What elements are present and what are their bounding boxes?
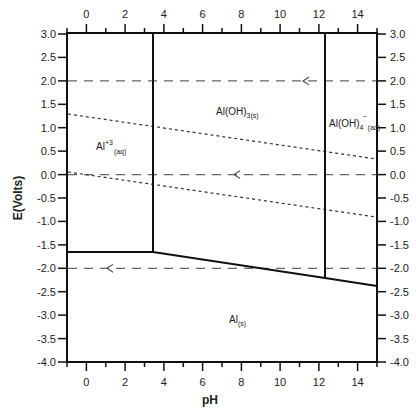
- svg-text:14: 14: [351, 8, 363, 20]
- svg-text:0: 0: [83, 376, 89, 388]
- svg-text:-1.0: -1.0: [37, 215, 56, 227]
- svg-text:2: 2: [122, 8, 128, 20]
- svg-text:1.0: 1.0: [41, 122, 56, 134]
- svg-text:-4.0: -4.0: [37, 356, 56, 368]
- svg-text:6: 6: [200, 8, 206, 20]
- svg-text:0.5: 0.5: [390, 145, 405, 157]
- svg-text:4: 4: [161, 376, 167, 388]
- water-stability-lines: [68, 114, 376, 217]
- svg-text:-1.0: -1.0: [390, 215, 409, 227]
- svg-text:2: 2: [122, 376, 128, 388]
- svg-text:6: 6: [200, 376, 206, 388]
- svg-text:-0.5: -0.5: [37, 192, 56, 204]
- y-ticks: [58, 34, 386, 362]
- pourbaix-diagram: 0 2 4 6 8 10 12 14 0 2 4 6 8 10 12 14 3.…: [0, 0, 416, 410]
- y-tick-labels-left: 3.0 2.5 2.0 1.5 1.0 0.5 0.0 -0.5 -1.0 -1…: [37, 28, 56, 368]
- x-tick-labels-top: 0 2 4 6 8 10 12 14: [83, 8, 363, 20]
- y-axis-label: E(Volts): [11, 176, 25, 220]
- svg-text:-2.5: -2.5: [390, 286, 409, 298]
- svg-text:8: 8: [238, 8, 244, 20]
- svg-text:1.5: 1.5: [390, 98, 405, 110]
- svg-text:8: 8: [238, 376, 244, 388]
- svg-text:2.0: 2.0: [41, 75, 56, 87]
- region-label-al-solid: Al(s): [229, 314, 246, 328]
- svg-text:0: 0: [83, 8, 89, 20]
- svg-text:-2.5: -2.5: [37, 286, 56, 298]
- svg-text:-3.5: -3.5: [37, 333, 56, 345]
- region-label-aloh3: Al(OH)3(s): [216, 106, 259, 120]
- svg-text:-1.5: -1.5: [37, 239, 56, 251]
- svg-text:-0.5: -0.5: [390, 192, 409, 204]
- arrow-left-icon: [107, 264, 113, 272]
- svg-text:12: 12: [313, 376, 325, 388]
- svg-text:-3.5: -3.5: [390, 333, 409, 345]
- svg-text:2.5: 2.5: [41, 51, 56, 63]
- region-label-aloh4: Al(OH)4−(aq): [329, 113, 380, 132]
- svg-text:3.0: 3.0: [390, 28, 405, 40]
- svg-text:2.0: 2.0: [390, 75, 405, 87]
- x-axis-label: pH: [202, 393, 218, 407]
- region-label-al3: Al+3(aq): [96, 139, 126, 156]
- phase-boundaries: [67, 34, 377, 286]
- x-tick-labels-bottom: 0 2 4 6 8 10 12 14: [83, 376, 363, 388]
- svg-text:10: 10: [274, 8, 286, 20]
- boundary-al-solid: [67, 252, 377, 286]
- svg-text:0.0: 0.0: [41, 169, 56, 181]
- svg-text:-1.5: -1.5: [390, 239, 409, 251]
- svg-text:4: 4: [161, 8, 167, 20]
- svg-text:0.5: 0.5: [41, 145, 56, 157]
- svg-text:0.0: 0.0: [390, 169, 405, 181]
- svg-text:-3.0: -3.0: [390, 309, 409, 321]
- svg-text:-3.0: -3.0: [37, 309, 56, 321]
- svg-text:-2.0: -2.0: [37, 262, 56, 274]
- svg-text:14: 14: [351, 376, 363, 388]
- svg-text:2.5: 2.5: [390, 51, 405, 63]
- svg-text:12: 12: [313, 8, 325, 20]
- svg-text:-2.0: -2.0: [390, 262, 409, 274]
- y-tick-labels-right: 3.0 2.5 2.0 1.5 1.0 0.5 0.0 -0.5 -1.0 -1…: [390, 28, 409, 368]
- svg-text:10: 10: [274, 376, 286, 388]
- svg-text:3.0: 3.0: [41, 28, 56, 40]
- plot-frame: [67, 33, 377, 362]
- x-ticks: [67, 24, 377, 371]
- svg-text:1.0: 1.0: [390, 122, 405, 134]
- svg-text:-4.0: -4.0: [390, 356, 409, 368]
- svg-text:1.5: 1.5: [41, 98, 56, 110]
